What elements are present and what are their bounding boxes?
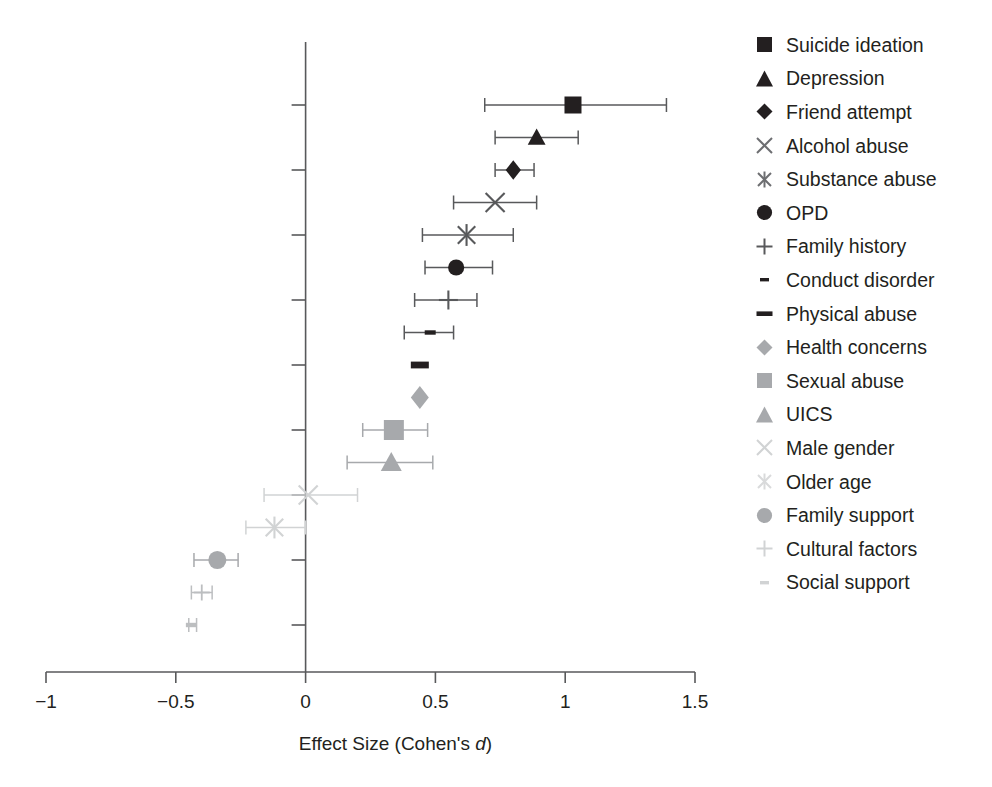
legend-item-label: Family history xyxy=(786,236,906,256)
square-marker-icon xyxy=(751,368,777,394)
legend-item-label: Depression xyxy=(786,68,885,88)
data-point-marker xyxy=(381,452,402,471)
legend-item[interactable]: Conduct disorder xyxy=(751,263,987,297)
legend-item[interactable]: Friend attempt xyxy=(751,95,987,129)
data-point-marker xyxy=(448,259,464,275)
forest-row xyxy=(264,486,357,505)
legend-item[interactable]: Depression xyxy=(751,62,987,96)
legend-item[interactable]: Family support xyxy=(751,498,987,532)
plus-marker-icon xyxy=(751,536,777,562)
forest-row xyxy=(411,362,429,369)
data-point-marker xyxy=(439,291,458,310)
legend-item[interactable]: Alcohol abuse xyxy=(751,129,987,163)
legend-item[interactable]: UICS xyxy=(751,398,987,432)
data-point-marker xyxy=(411,362,429,369)
forest-row xyxy=(194,551,238,569)
forest-row xyxy=(347,452,433,471)
legend-item-label: Sexual abuse xyxy=(786,371,904,391)
data-point-marker xyxy=(411,386,429,409)
legend-item-label: OPD xyxy=(786,203,828,223)
legend-item[interactable]: Older age xyxy=(751,465,987,499)
diamond-marker-icon xyxy=(751,334,777,360)
data-point-marker xyxy=(208,551,226,569)
data-point-marker xyxy=(186,623,197,627)
data-point-marker xyxy=(528,129,546,145)
forest-row xyxy=(411,386,429,409)
x-axis-tick-label: 1.5 xyxy=(682,691,708,712)
forest-row xyxy=(422,224,513,246)
legend-item[interactable]: Substance abuse xyxy=(751,162,987,196)
forest-row xyxy=(495,160,534,180)
forest-row xyxy=(485,97,667,114)
legend-item[interactable]: Male gender xyxy=(751,431,987,465)
plus-marker-icon xyxy=(751,233,777,259)
data-point-marker xyxy=(384,420,404,440)
data-point-marker xyxy=(564,97,581,114)
forest-row xyxy=(186,618,197,632)
forest-row xyxy=(495,129,578,145)
dash-lg-marker-icon xyxy=(751,301,777,327)
forest-row xyxy=(191,585,212,601)
forest-plot-figure: −1−0.500.511.5Effect Size (Cohen's d) Su… xyxy=(0,0,992,787)
legend-item-label: Conduct disorder xyxy=(786,270,935,290)
x-axis-tick-label: −0.5 xyxy=(157,691,195,712)
x-axis-tick-label: −1 xyxy=(35,691,57,712)
legend-item[interactable]: Health concerns xyxy=(751,330,987,364)
diamond-marker-icon xyxy=(751,99,777,125)
x-axis-tick-label: 1 xyxy=(560,691,571,712)
legend-item[interactable]: Physical abuse xyxy=(751,297,987,331)
triangle-marker-icon xyxy=(751,65,777,91)
data-point-marker xyxy=(425,330,436,334)
square-marker-icon xyxy=(751,32,777,58)
forest-row xyxy=(415,291,477,310)
legend-item[interactable]: Sexual abuse xyxy=(751,364,987,398)
triangle-marker-icon xyxy=(751,401,777,427)
legend-item[interactable]: Social support xyxy=(751,566,987,600)
legend-item-label: Alcohol abuse xyxy=(786,136,909,156)
asterisk-marker-icon xyxy=(751,469,777,495)
legend-item-label: Suicide ideation xyxy=(786,35,924,55)
legend-item-label: Male gender xyxy=(786,438,894,458)
circle-marker-icon xyxy=(751,200,777,226)
legend-item-label: Social support xyxy=(786,572,910,592)
legend-item[interactable]: OPD xyxy=(751,196,987,230)
legend-item-label: Friend attempt xyxy=(786,102,912,122)
legend-item-label: Health concerns xyxy=(786,337,927,357)
forest-row xyxy=(404,326,453,340)
asterisk-marker-icon xyxy=(751,166,777,192)
legend-item[interactable]: Cultural factors xyxy=(751,532,987,566)
forest-row xyxy=(363,420,428,440)
data-point-marker xyxy=(506,160,521,180)
legend-item[interactable]: Family history xyxy=(751,230,987,264)
legend-item-label: Cultural factors xyxy=(786,539,917,559)
data-point-marker xyxy=(194,585,210,601)
circle-marker-icon xyxy=(751,502,777,528)
legend-item-label: Substance abuse xyxy=(786,169,937,189)
x-axis-title: Effect Size (Cohen's d) xyxy=(299,733,492,754)
dash-sm-marker-icon xyxy=(751,569,777,595)
forest-row xyxy=(454,193,537,212)
chart-legend: Suicide ideationDepressionFriend attempt… xyxy=(751,28,987,599)
legend-item-label: Family support xyxy=(786,505,914,525)
cross-x-marker-icon xyxy=(751,133,777,159)
forest-row xyxy=(425,259,492,275)
legend-item-label: Older age xyxy=(786,472,872,492)
legend-item[interactable]: Suicide ideation xyxy=(751,28,987,62)
x-axis-tick-label: 0.5 xyxy=(422,691,448,712)
x-axis-tick-label: 0 xyxy=(300,691,311,712)
dash-sm-marker-icon xyxy=(751,267,777,293)
forest-row xyxy=(246,517,306,539)
legend-item-label: UICS xyxy=(786,404,833,424)
legend-item-label: Physical abuse xyxy=(786,304,917,324)
cross-x-marker-icon xyxy=(751,435,777,461)
